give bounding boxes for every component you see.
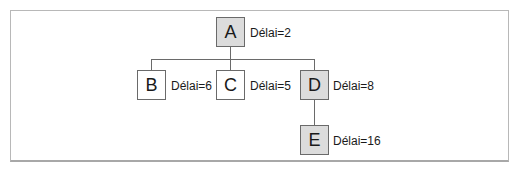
node-a-delay: Délai=2 — [250, 26, 291, 40]
edge-a-stem — [230, 47, 231, 59]
node-a: A — [216, 17, 245, 47]
edge-a-b — [151, 59, 152, 70]
node-b: B — [137, 70, 166, 100]
edge-a-d — [314, 59, 315, 70]
edge-d-e — [314, 100, 315, 125]
node-e: E — [300, 125, 329, 155]
node-c: C — [216, 70, 245, 100]
node-d: D — [300, 70, 329, 100]
edge-horizontal-bus — [151, 59, 315, 60]
edge-a-c — [230, 59, 231, 70]
node-d-delay: Délai=8 — [333, 79, 374, 93]
node-e-delay: Délai=16 — [333, 134, 381, 148]
node-c-delay: Délai=5 — [250, 79, 291, 93]
node-b-delay: Délai=6 — [171, 79, 212, 93]
